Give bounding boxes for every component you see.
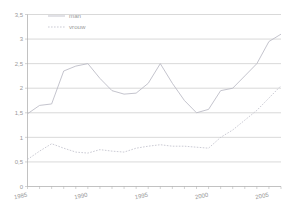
x-tick-label: 2005 (255, 191, 270, 200)
y-tick-label: 2,5 (15, 61, 24, 67)
y-tick-label: 2 (20, 85, 24, 91)
legend-label-man: man (69, 12, 82, 19)
series-line-man (28, 34, 282, 114)
y-tick-label: 0 (20, 184, 24, 190)
line-chart: 00,511,522,533,5 19851990199520002005 ma… (0, 0, 286, 217)
x-tick-label: 1985 (13, 191, 28, 200)
y-tick-label: 3 (20, 36, 24, 42)
series-line-vrouw (28, 86, 282, 160)
y-tick-label: 3,5 (15, 12, 24, 18)
data-series (28, 34, 282, 159)
x-axis-tick-labels: 19851990199520002005 (13, 191, 269, 200)
y-tick-label: 1 (20, 135, 24, 141)
gridlines (28, 15, 282, 162)
axis-ticks (25, 15, 281, 190)
x-tick-label: 2000 (194, 191, 209, 200)
x-tick-label: 1990 (74, 191, 89, 200)
axes (28, 15, 282, 187)
y-tick-label: 1,5 (15, 110, 24, 116)
chart-legend: manvrouw (48, 12, 86, 30)
y-tick-label: 0,5 (15, 159, 24, 165)
chart-canvas: 00,511,522,533,5 19851990199520002005 ma… (0, 0, 286, 217)
legend-label-vrouw: vrouw (69, 23, 86, 30)
y-axis-tick-labels: 00,511,522,533,5 (15, 12, 24, 190)
x-tick-label: 1995 (134, 191, 149, 200)
